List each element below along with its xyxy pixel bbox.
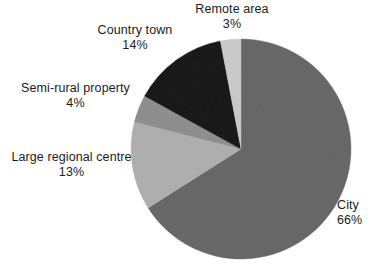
slice-label-city: City 66% (337, 198, 379, 228)
slice-label-city-value: 66% (337, 213, 379, 228)
slice-label-large-regional-centre-name: Large regional centre (0, 150, 143, 165)
pie-chart-figure: Remote area 3% Country town 14% Semi-rur… (0, 0, 379, 266)
slice-label-remote-area: Remote area 3% (178, 2, 286, 32)
slice-label-country-town-name: Country town (78, 23, 192, 38)
slice-label-semi-rural-property-name: Semi-rural property (8, 81, 143, 96)
slice-label-large-regional-centre-value: 13% (0, 165, 143, 180)
slice-label-remote-area-name: Remote area (178, 2, 286, 17)
slice-label-country-town: Country town 14% (78, 23, 192, 53)
slice-label-large-regional-centre: Large regional centre 13% (0, 150, 143, 180)
slice-label-country-town-value: 14% (78, 38, 192, 53)
slice-label-semi-rural-property: Semi-rural property 4% (8, 81, 143, 111)
paper-grain-overlay (131, 39, 351, 259)
slice-label-remote-area-value: 3% (178, 17, 286, 32)
slice-label-city-name: City (337, 198, 379, 213)
slice-label-semi-rural-property-value: 4% (8, 96, 143, 111)
